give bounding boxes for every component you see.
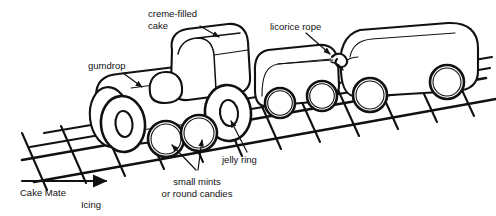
- label-creme-filled-cake-line2: cake: [148, 20, 168, 31]
- label-creme-filled-cake-line1: creme-filled: [148, 8, 197, 19]
- label-gumdrop: gumdrop: [88, 60, 126, 71]
- label-small-mints-line1: small mints: [173, 176, 221, 187]
- rear-car-wheel-front: [353, 78, 387, 112]
- rear-car-wheel-rear: [430, 65, 464, 99]
- label-small-mints-line2: or round candies: [162, 188, 233, 199]
- rear-car: [340, 23, 478, 112]
- mint-wheel-right: [181, 115, 217, 151]
- candy-train-diagram: creme-filled cake gumdrop licorice rope …: [0, 0, 496, 216]
- label-cake-mate-icing-line1: Cake Mate: [20, 187, 66, 198]
- middle-car-wheel-front: [265, 88, 295, 118]
- diagram-canvas: creme-filled cake gumdrop licorice rope …: [0, 0, 496, 216]
- locomotive: [86, 24, 253, 157]
- label-cake-mate-icing-line2: Icing: [81, 199, 101, 210]
- middle-car-wheel-rear: [307, 81, 337, 111]
- label-licorice-rope: licorice rope: [270, 21, 321, 32]
- gumdrop-dome: [150, 72, 182, 103]
- label-jelly-ring: jelly ring: [221, 154, 257, 165]
